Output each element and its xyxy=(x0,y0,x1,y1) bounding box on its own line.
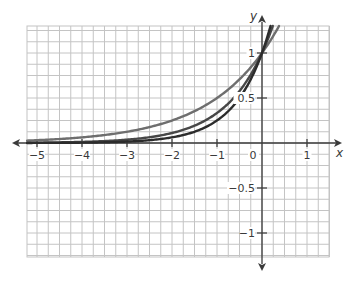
x-tick-label: −4 xyxy=(74,149,90,162)
origin-label: 0 xyxy=(250,149,257,162)
y-axis-up-arrow-icon xyxy=(258,15,266,23)
x-tick-label: 1 xyxy=(304,149,311,162)
y-axis-down-arrow-icon xyxy=(258,263,266,271)
x-tick-label: −2 xyxy=(164,149,180,162)
y-tick-label: 1 xyxy=(248,47,255,60)
x-tick-label: −1 xyxy=(209,149,225,162)
tick-labels: −5−4−3−2−11010.5−0.5−1xy xyxy=(29,9,344,240)
y-tick-label: −1 xyxy=(239,227,255,240)
y-axis-label: y xyxy=(249,9,258,23)
curve-y-2-x xyxy=(27,26,279,141)
x-tick-label: −3 xyxy=(119,149,135,162)
x-tick-label: −5 xyxy=(29,149,45,162)
curves xyxy=(27,26,279,143)
y-tick-label: 0.5 xyxy=(238,92,256,105)
y-tick-label: −0.5 xyxy=(228,182,255,195)
exponential-graph: −5−4−3−2−11010.5−0.5−1xy xyxy=(0,0,352,286)
x-axis-label: x xyxy=(335,146,344,160)
